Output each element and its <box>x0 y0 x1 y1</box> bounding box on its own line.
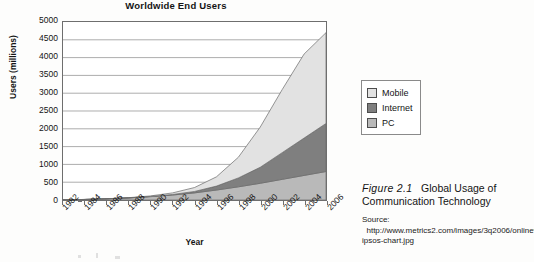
x-axis-label: Year <box>62 237 327 247</box>
scan-artifact <box>78 255 81 258</box>
figure-container: Worldwide End Users Users (millions) 050… <box>0 0 534 262</box>
legend-swatch-pc <box>367 118 377 128</box>
source-url[interactable]: http://www.metrics2.com/images/3q2006/on… <box>362 226 534 246</box>
scan-artifact <box>96 253 98 258</box>
y-tick-label: 500 <box>24 177 58 187</box>
y-tick-label: 1500 <box>24 141 58 151</box>
legend-label-pc: PC <box>382 118 395 128</box>
y-axis-tick-labels: 0500100015002000250030003500400045005000 <box>20 21 58 201</box>
figure-number: Figure 2.1 <box>362 182 412 194</box>
y-axis-label: Users (millions) <box>8 12 18 122</box>
legend-item-internet[interactable]: Internet <box>367 100 413 115</box>
y-tick-label: 2500 <box>24 105 58 115</box>
legend-item-mobile[interactable]: Mobile <box>367 85 413 100</box>
source-label: Source: <box>362 215 390 224</box>
y-tick-label: 0 <box>24 195 58 205</box>
legend-swatch-internet <box>367 103 377 113</box>
legend-label-mobile: Mobile <box>382 88 409 98</box>
x-tick-label: 2006 <box>325 192 345 212</box>
stacked-area-svg <box>63 22 326 200</box>
chart-title: Worldwide End Users <box>0 0 352 11</box>
figure-caption: Figure 2.1 Global Usage of Communication… <box>362 182 530 247</box>
caption-source: Source: http://www.metrics2.com/images/3… <box>362 215 530 247</box>
y-tick-label: 3500 <box>24 69 58 79</box>
plot-area <box>62 21 327 201</box>
y-tick-label: 1000 <box>24 159 58 169</box>
y-tick-label: 5000 <box>24 15 58 25</box>
legend-item-pc[interactable]: PC <box>367 115 413 130</box>
y-tick-label: 3000 <box>24 87 58 97</box>
legend-swatch-mobile <box>367 88 377 98</box>
y-tick-label: 4000 <box>24 51 58 61</box>
chart: Worldwide End Users Users (millions) 050… <box>0 0 352 250</box>
legend-label-internet: Internet <box>382 103 413 113</box>
y-tick-label: 2000 <box>24 123 58 133</box>
scan-artifact <box>115 256 120 259</box>
y-tick-label: 4500 <box>24 33 58 43</box>
chart-legend: Mobile Internet PC <box>361 80 421 135</box>
caption-heading: Figure 2.1 Global Usage of Communication… <box>362 182 530 208</box>
y-tick-mark <box>78 201 82 202</box>
